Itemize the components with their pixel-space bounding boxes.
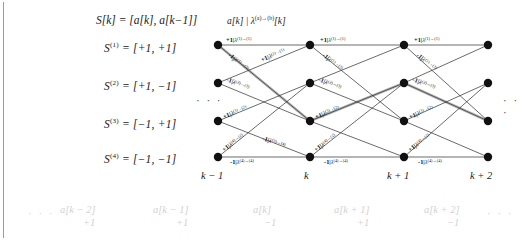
branch-label-s1-s1-a: +1|λ(1)→(1) [226, 36, 252, 43]
node-k-1-s2 [214, 79, 222, 87]
node-k+1-s2 [400, 79, 408, 87]
bottom-right-ellipsis: · · · [487, 207, 514, 219]
node-k+1-s4 [400, 153, 408, 161]
node-k+2-s2 [484, 79, 492, 87]
highlighted-survivor-path [218, 45, 488, 121]
branch-label-s2-s3-a: -1|λ(2)→(3) [226, 75, 251, 91]
time-axis-label-k: k [304, 170, 309, 181]
bottom-symbol-0: a[k − 2] [60, 204, 96, 215]
node-k-1-s4 [214, 153, 222, 161]
branch-label-s4-s2-c: +1|λ(4)→(2) [406, 132, 431, 153]
branch-label-s1-s1-c: +1|λ(1)→(1) [414, 36, 440, 43]
branch-label-s3-s2-c: +1|λ(3)→(2) [408, 104, 435, 120]
bottom-value-1: +1 [176, 217, 188, 228]
node-k+2-s3 [484, 117, 492, 125]
bottom-symbol-3: a[k + 1] [334, 204, 370, 215]
time-axis-label-k-1: k − 1 [201, 170, 223, 181]
branch-label-s4-s2-b: +1|λ(4)→(2) [312, 132, 337, 153]
bottom-value-0: +1 [83, 217, 95, 228]
branch-labels-stage-3: +1|λ(1)→(1) -1|λ(1)→(3) -1|λ(2)→(3) +1|λ… [406, 36, 442, 165]
bottom-symbol-1: a[k − 1] [153, 204, 189, 215]
node-k+1-s1 [400, 41, 408, 49]
bottom-symbol-2: a[k] [253, 204, 271, 215]
branch-label-s1-s3-a: -1|λ(1)→(3) [227, 51, 250, 72]
node-k-s3 [306, 117, 314, 125]
branch-label-s4-s4-c: -1|λ(4)→(4) [418, 158, 442, 165]
node-k-s2 [306, 79, 314, 87]
bottom-value-2: −1 [264, 217, 276, 228]
branch-label-s3-s2-b: +1|λ(3)→(2) [314, 104, 341, 120]
branch-label-s4-s2-a: +1|λ(4)→(2) [220, 132, 245, 153]
node-k+2-s4 [484, 153, 492, 161]
bottom-symbol-4: a[k + 2] [424, 204, 460, 215]
branch-label-s2-s3-b: -1|λ(2)→(3) [318, 75, 343, 91]
branch-labels-stage-1: +1|λ(1)→(1) -1|λ(1)→(3) +1|λ(2)→(1) -1|λ… [220, 36, 287, 165]
figure-canvas: S[k] = [a[k], a[k−1]] S(1) = [+1, +1] S(… [0, 0, 527, 240]
bottom-value-3: +1 [357, 217, 369, 228]
branch-label-s1-s3-b: -1|λ(1)→(3) [321, 51, 344, 72]
branch-label-s1-s1-b: +1|λ(1)→(1) [320, 36, 346, 43]
time-axis-label-k+1: k + 1 [387, 170, 409, 181]
trellis-nodes [214, 41, 492, 161]
node-k+2-s1 [484, 41, 492, 49]
branch-label-s4-s4-b: -1|λ(4)→(4) [324, 158, 348, 165]
branch-labels-stage-2: +1|λ(1)→(1) -1|λ(1)→(3) -1|λ(2)→(3) +1|λ… [312, 36, 348, 165]
node-k-s1 [306, 41, 314, 49]
node-k-1-s3 [214, 117, 222, 125]
branch-label-s1-s3-c: -1|λ(1)→(3) [415, 51, 438, 72]
node-k-s4 [306, 153, 314, 161]
branch-label-s3-s2-a: +1|λ(3)→(2) [222, 104, 249, 120]
node-k+1-s3 [400, 117, 408, 125]
bottom-value-4: −1 [447, 217, 459, 228]
branch-label-s4-s4-a: -1|λ(4)→(4) [230, 158, 254, 165]
node-k-1-s1 [214, 41, 222, 49]
time-axis-label-k+2: k + 2 [470, 170, 492, 181]
bottom-left-ellipsis: · · · [28, 207, 55, 219]
